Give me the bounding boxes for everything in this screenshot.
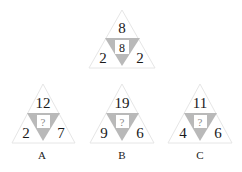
triangle-puzzle-diagram: 8 8 2 2 12 ? 2 7 A 19 ? 9 6 B 11 ? 4 6 C <box>0 0 242 172</box>
option-label: A <box>38 149 46 161</box>
center-number: 8 <box>119 41 125 55</box>
right-number: 2 <box>136 50 144 66</box>
left-number: 4 <box>179 125 187 141</box>
left-number: 9 <box>100 125 108 141</box>
top-number: 8 <box>118 20 126 36</box>
right-number: 7 <box>57 125 65 141</box>
example-triangle: 8 8 2 2 <box>89 10 155 68</box>
top-number: 11 <box>193 95 207 111</box>
left-number: 2 <box>22 125 30 141</box>
top-number: 19 <box>115 95 130 111</box>
right-number: 6 <box>214 125 222 141</box>
center-question-mark: ? <box>41 116 46 128</box>
left-number: 2 <box>99 50 107 66</box>
center-question-mark: ? <box>198 116 203 128</box>
option-label: C <box>196 149 203 161</box>
option-c-triangle[interactable]: 11 ? 4 6 C <box>168 84 232 161</box>
option-a-triangle[interactable]: 12 ? 2 7 A <box>12 84 75 161</box>
center-question-mark: ? <box>120 116 125 128</box>
top-number: 12 <box>36 95 51 111</box>
right-number: 6 <box>136 125 144 141</box>
option-label: B <box>118 149 125 161</box>
option-b-triangle[interactable]: 19 ? 9 6 B <box>90 84 154 161</box>
